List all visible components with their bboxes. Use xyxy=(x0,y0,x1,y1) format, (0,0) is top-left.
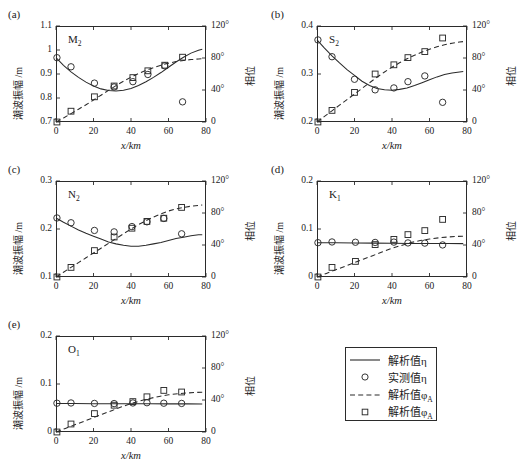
legend-label-solid-line: 解析值η xyxy=(388,352,427,368)
legend-entry-circle-marker: 实测值η xyxy=(348,369,427,385)
legend-label-subscript-square-marker: A xyxy=(427,412,432,421)
legend-label-circle-marker: 实测值η xyxy=(388,369,427,385)
figure-canvas: (a) M20.70.80.911.1040°80°120°020406080x… xyxy=(0,0,526,472)
panel-e-observed-phase-marker xyxy=(179,389,185,395)
panel-e-phase-curve xyxy=(56,392,202,432)
legend-entry-dashed-line: 解析值φA xyxy=(348,386,433,404)
legend-entry-solid-line: 解析值η xyxy=(348,352,427,368)
panel-e-observed-phase-marker xyxy=(92,411,98,417)
panel-e-observed-phase-marker xyxy=(68,421,74,427)
panel-e-observed-amplitude-marker xyxy=(68,400,74,406)
legend-key-circle-marker xyxy=(348,371,382,383)
legend-key-dashed-line xyxy=(348,389,382,401)
panel-e-data-layer xyxy=(0,0,526,472)
legend-label-dashed-line: 解析值φA xyxy=(388,386,433,404)
panel-e-observed-amplitude-marker xyxy=(161,400,167,406)
panel-e-observed-amplitude-marker xyxy=(144,400,150,406)
legend-label-square-marker: 解析值φA xyxy=(388,403,433,421)
legend-key-square-marker xyxy=(348,406,382,418)
legend-key-solid-line xyxy=(348,354,382,366)
panel-e-observed-phase-marker xyxy=(161,388,167,394)
legend-entry-square-marker: 解析值φA xyxy=(348,403,433,421)
